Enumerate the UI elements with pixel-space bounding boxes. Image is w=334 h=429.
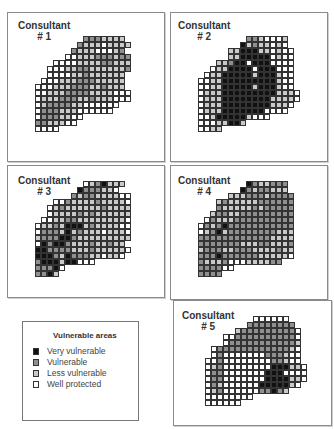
swatch-vulnerable-icon xyxy=(33,359,39,366)
grid-cell xyxy=(276,259,282,265)
grid-cell xyxy=(282,108,288,114)
grid-cell xyxy=(53,126,59,132)
grid-cell xyxy=(89,259,95,265)
grid-cell xyxy=(119,253,125,259)
grid-cell xyxy=(107,108,113,114)
legend-item-vulnerable: Vulnerable xyxy=(33,357,87,367)
grid-cell xyxy=(125,96,131,102)
swatch-less-vulnerable-icon xyxy=(33,370,39,377)
grid-cell xyxy=(288,102,294,108)
grid-cell xyxy=(53,271,59,277)
legend-label: Very vulnerable xyxy=(47,346,106,356)
panel-title: Consultant# 1 xyxy=(18,20,70,42)
grid-cell xyxy=(125,247,131,253)
panel-title-label: Consultant xyxy=(178,175,230,186)
grid-cell xyxy=(125,66,131,72)
grid-cell xyxy=(294,96,300,102)
panel-number-label: # 1 xyxy=(18,31,70,42)
grid-cell xyxy=(283,388,289,394)
grid-cell xyxy=(59,265,65,271)
legend-label: Well protected xyxy=(47,379,101,389)
grid-cell xyxy=(288,253,294,259)
grid-cell xyxy=(71,120,77,126)
legend-label: Vulnerable xyxy=(47,357,87,367)
grid-cell xyxy=(216,271,222,277)
grid-cell xyxy=(125,42,131,48)
grid-cell xyxy=(119,181,125,187)
panel-title: Consultant# 5 xyxy=(182,310,234,332)
legend-title: Vulnerable areas xyxy=(53,331,117,340)
legend-box: Vulnerable areas Very vulnerable Vulnera… xyxy=(22,321,139,421)
grid-cell xyxy=(295,382,301,388)
panel-number-label: # 4 xyxy=(178,186,230,197)
grid-cell xyxy=(235,400,241,406)
panel-number-label: # 5 xyxy=(182,321,234,332)
panel-title: Consultant# 2 xyxy=(178,20,230,42)
grid-cell xyxy=(113,102,119,108)
panel-title-label: Consultant xyxy=(18,175,70,186)
grid-cell xyxy=(228,265,234,271)
grid-cell xyxy=(301,376,307,382)
grid-cell xyxy=(77,114,83,120)
panel-title: Consultant# 4 xyxy=(178,175,230,197)
grid-cell xyxy=(240,120,246,126)
swatch-very-vulnerable-icon xyxy=(33,348,39,355)
legend-item-very-vulnerable: Very vulnerable xyxy=(33,346,106,356)
panel-number-label: # 3 xyxy=(18,186,70,197)
grid-cell xyxy=(247,394,253,400)
panel-title-label: Consultant xyxy=(18,20,70,31)
panel-number-label: # 2 xyxy=(178,31,230,42)
grid-cell xyxy=(216,126,222,132)
legend-label: Less vulnerable xyxy=(47,368,107,378)
legend-item-well-protected: Well protected xyxy=(33,379,101,389)
panel-title-label: Consultant xyxy=(178,20,230,31)
grid-cell xyxy=(125,235,131,241)
legend-item-less-vulnerable: Less vulnerable xyxy=(33,368,107,378)
panel-title: Consultant# 3 xyxy=(18,175,70,197)
swatch-well-protected-icon xyxy=(33,381,39,388)
panel-title-label: Consultant xyxy=(182,310,234,321)
grid-cell xyxy=(264,114,270,120)
